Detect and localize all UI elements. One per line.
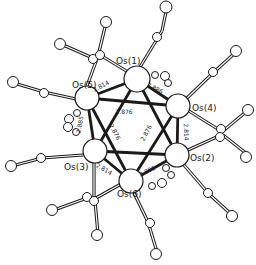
label-os1: Os(1)	[116, 56, 141, 66]
carbonyl-ligands	[6, 1, 254, 260]
label-os6: Os(6)	[117, 189, 142, 199]
atom-os2	[165, 143, 189, 167]
bond-label: 2.876	[139, 123, 153, 142]
bond-label: 2.886	[146, 81, 165, 95]
atom-os4	[166, 94, 190, 118]
label-os2: Os(2)	[190, 153, 215, 163]
label-os3: Os(3)	[64, 162, 89, 172]
bond-label: 2.814	[183, 123, 191, 141]
bond-label: 2.876	[115, 108, 132, 115]
atom-os1	[124, 66, 150, 92]
os6-cluster-diagram: Os(1) Os(5) Os(4) Os(3) Os(2) Os(6) 2.81…	[0, 0, 256, 265]
bond-label: 2.885	[75, 115, 85, 133]
atom-os3	[83, 139, 107, 163]
bond-label: 2.876	[108, 123, 122, 142]
label-os4: Os(4)	[192, 103, 217, 113]
